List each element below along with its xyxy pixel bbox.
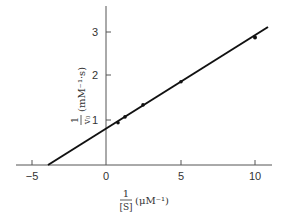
data-point (123, 115, 127, 119)
x-axis-label: 1 [S] (μM⁻¹) (119, 188, 169, 212)
y-tick-label: 2 (92, 69, 98, 81)
data-point (141, 103, 145, 107)
x-ticks (32, 160, 255, 165)
x-tick-label: 5 (178, 170, 184, 182)
y-label-unit: (mM⁻¹·s) (76, 67, 87, 112)
y-label-numerator: 1 (69, 117, 80, 123)
y-ticks (106, 32, 111, 120)
y-tick-label: 1 (92, 114, 98, 126)
x-tick-label: 10 (249, 170, 261, 182)
data-points (116, 36, 257, 125)
data-point (116, 121, 120, 125)
data-point (253, 36, 257, 40)
x-tick-label: −5 (26, 170, 39, 182)
x-label-unit: (μM⁻¹) (135, 195, 169, 206)
x-label-numerator: 1 (123, 188, 129, 199)
lineweaver-burk-plot: −5 0 5 10 1 2 3 1 [S] (μM⁻¹) 1 v₀ (mM⁻¹·… (0, 0, 282, 216)
y-tick-label: 3 (92, 26, 98, 38)
x-label-denominator: [S] (119, 202, 132, 212)
x-tick-label: 0 (103, 170, 109, 182)
y-label-denominator: v₀ (82, 115, 92, 125)
data-point (179, 80, 183, 84)
y-axis-label: 1 v₀ (mM⁻¹·s) (69, 67, 92, 126)
